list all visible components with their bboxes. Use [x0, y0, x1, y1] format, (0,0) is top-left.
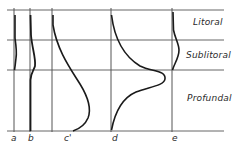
- zone-label-profundal: Profundal: [187, 93, 232, 103]
- axis-label-a: a: [11, 133, 17, 143]
- zone-label-sublitoral: Sublitoral: [186, 50, 231, 60]
- curve-d: [112, 15, 166, 130]
- curve-b: [31, 15, 36, 131]
- axis-label-b: b: [28, 133, 34, 143]
- axis-label-e: e: [172, 133, 178, 143]
- lake-zone-distribution-diagram: Litoral Sublitoral Profundal a b c' d e: [0, 0, 237, 145]
- axis-label-d: d: [112, 133, 118, 143]
- axis-label-c: c': [64, 133, 71, 143]
- curve-c: [53, 15, 90, 131]
- curve-a: [15, 15, 17, 70]
- zone-label-litoral: Litoral: [193, 17, 223, 27]
- curve-e: [173, 12, 180, 70]
